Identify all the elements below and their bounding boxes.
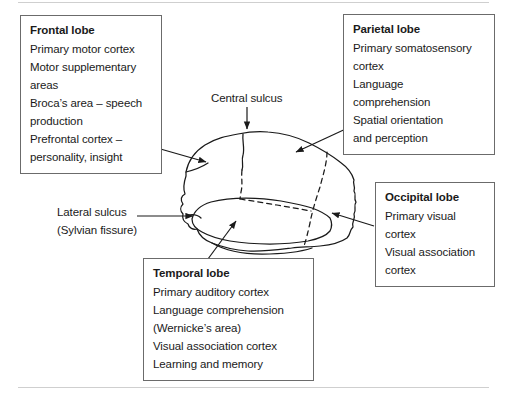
parietal-lobe-line-2: cortex (353, 57, 485, 75)
temporal-lobe-line-1: Primary auditory cortex (153, 283, 304, 301)
parietal-lobe-line-5: Spatial orientation (353, 111, 485, 129)
frontal-lobe-line-4: Broca’s area – speech (30, 94, 152, 112)
occipital-lobe-line-4: cortex (385, 261, 485, 279)
frontal-fold-line (186, 163, 208, 172)
frontal-lobe-line-2: Motor supplementary (30, 58, 152, 76)
temporal-lobe-line-4: Visual association cortex (153, 337, 304, 355)
occipital-lobe-title: Occipital lobe (385, 189, 485, 206)
callout-box-occipital-lobe[interactable]: Occipital lobe Primary visual cortex Vis… (375, 182, 495, 287)
frontal-lobe-line-6: Prefrontal cortex – (30, 130, 152, 148)
occipital-lobe-line-2: cortex (385, 225, 485, 243)
brain-outline (181, 132, 356, 252)
central-sulcus-stroke (242, 134, 244, 170)
inferior-contour (212, 243, 312, 254)
frontal-lobe-line-1: Primary motor cortex (30, 40, 152, 58)
callout-box-temporal-lobe[interactable]: Temporal lobe Primary auditory cortex La… (143, 258, 314, 381)
parieto-occipital-dashed (304, 152, 327, 246)
parietal-lobe-line-6: and perception (353, 129, 485, 147)
callout-box-frontal-lobe[interactable]: Frontal lobe Primary motor cortex Motor … (20, 15, 162, 174)
temporal-lobe-title: Temporal lobe (153, 265, 304, 282)
temporal-lobe-line-3: (Wernicke’s area) (153, 319, 304, 337)
parietal-lobe-line-3: Language (353, 75, 485, 93)
parietal-lobe-title: Parietal lobe (353, 21, 485, 38)
temporal-lobe-line-2: Language comprehension (153, 301, 304, 319)
arrow-parietal-lobe (296, 127, 350, 152)
frontal-lobe-line-5: production (30, 112, 152, 130)
callout-box-parietal-lobe[interactable]: Parietal lobe Primary somatosensory cort… (343, 14, 495, 155)
occipital-lobe-line-3: Visual association (385, 243, 485, 261)
label-central-sulcus: Central sulcus (211, 89, 282, 107)
central-sulcus-dashed (240, 170, 242, 199)
parietal-lobe-line-1: Primary somatosensory (353, 39, 485, 57)
frontal-lobe-title: Frontal lobe (30, 22, 152, 39)
frontal-lobe-line-3: areas (30, 76, 152, 94)
label-lateral-sulcus-line-2: (Sylvian fissure) (57, 221, 137, 239)
temporal-lobe-outline (192, 198, 332, 244)
label-lateral-sulcus: Lateral sulcus (Sylvian fissure) (57, 203, 137, 239)
parietal-lobe-line-4: comprehension (353, 93, 485, 111)
figure-canvas: Frontal lobe Primary motor cortex Motor … (0, 0, 507, 397)
frontal-lobe-line-7: personality, insight (30, 148, 152, 166)
label-lateral-sulcus-line-1: Lateral sulcus (57, 203, 137, 221)
occipital-lobe-line-1: Primary visual (385, 207, 485, 225)
temporal-lobe-line-5: Learning and memory (153, 355, 304, 373)
